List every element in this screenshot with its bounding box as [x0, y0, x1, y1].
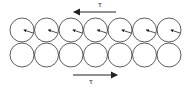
- circle: [108, 18, 132, 42]
- circle: [35, 18, 59, 42]
- circle: [157, 18, 181, 42]
- circle: [84, 43, 108, 67]
- circle: [35, 43, 59, 67]
- rotation-arrow-icon: [98, 30, 107, 33]
- rotation-arrow-icon: [122, 30, 131, 33]
- bottom-shear-arrow: τ: [73, 75, 117, 86]
- circle: [84, 18, 108, 42]
- circle: [59, 18, 83, 42]
- top-tau-label: τ: [98, 1, 102, 9]
- rotation-arrow-icon: [73, 30, 82, 33]
- rotation-arrow-icon: [49, 30, 58, 33]
- shear-diagram: τ τ: [0, 0, 187, 88]
- circle: [59, 43, 83, 67]
- top-row-circles: [10, 18, 181, 42]
- circle: [108, 43, 132, 67]
- circle: [10, 43, 34, 67]
- top-shear-arrow: τ: [74, 1, 116, 12]
- bottom-tau-label: τ: [89, 78, 93, 86]
- rotation-arrow-icon: [171, 30, 180, 33]
- rotation-arrow-icon: [24, 30, 33, 33]
- circle: [133, 18, 157, 42]
- bottom-row-circles: [10, 43, 181, 67]
- circle: [157, 43, 181, 67]
- rotation-arrow-icon: [147, 30, 156, 33]
- circle: [133, 43, 157, 67]
- circle: [10, 18, 34, 42]
